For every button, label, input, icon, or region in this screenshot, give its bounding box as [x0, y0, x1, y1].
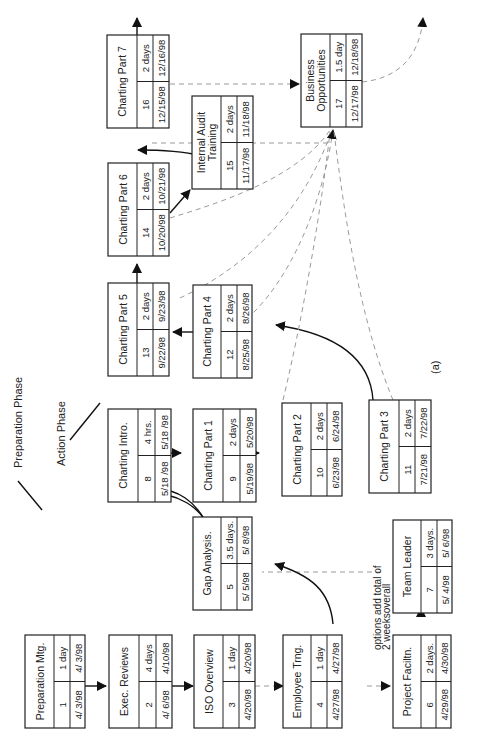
task-duration: 3 days. [424, 528, 435, 559]
task-duration: 1 day [226, 646, 237, 669]
task-node[interactable]: Employee Trng.41 day4/27/984/27/98 [283, 635, 342, 728]
task-start-date: 4/ 6/98 [160, 690, 171, 719]
task-end-date: 4/ 3/98 [73, 644, 84, 673]
task-id: 6 [424, 702, 435, 707]
phase-label-preparation: Preparation Phase [12, 377, 24, 468]
task-node[interactable]: Team Leader73 days.5/ 4/985/ 6/98 [393, 520, 452, 613]
task-duration: 3.5 days. [224, 521, 235, 560]
task-duration: 2 days [140, 44, 151, 72]
task-node[interactable]: ISO Overview31 day4/20/984/20/98 [194, 635, 255, 728]
task-duration: 2 days. [424, 643, 435, 674]
task-end-date: 7/22/98 [418, 407, 429, 439]
task-duration: 2 days [140, 172, 151, 200]
task-start-date: 4/ 3/98 [73, 690, 84, 719]
task-node[interactable]: Charting Part 2102 days6/23/986/24/98 [282, 403, 342, 496]
task-end-date: 12/16/98 [156, 40, 167, 77]
task-id: 14 [140, 227, 151, 238]
task-duration: 1 day [314, 646, 325, 669]
task-end-date: 6/24/98 [330, 410, 341, 442]
phase-label-action: Action Phase [55, 401, 67, 466]
task-end-date: 4/20/98 [242, 642, 253, 674]
task-id: 3 [226, 702, 237, 707]
task-node[interactable]: Charting Part 6142 days10/20/9810/21/98 [108, 163, 169, 256]
task-start-date: 7/21/98 [418, 454, 429, 486]
task-start-date: 9/22/98 [156, 337, 167, 369]
task-node[interactable]: Charting Part 3112 days7/21/987/22/98 [369, 400, 431, 493]
task-start-date: 4/27/98 [330, 689, 341, 721]
task-node[interactable]: Exec. Reviews24 days4/ 6/984/10/98 [109, 635, 172, 728]
task-title: Charting Part 2 [291, 414, 303, 485]
task-title: Project Faciltn. [401, 647, 413, 716]
task-title: Charting Part 3 [378, 411, 390, 482]
task-duration: 2 days [140, 292, 151, 320]
task-start-date: 11/17/98 [240, 148, 251, 184]
task-node[interactable]: BusinessOpportunities171.5 day12/17/9812… [301, 34, 362, 127]
task-title: Preparation Mtg. [34, 643, 46, 721]
task-node[interactable]: Internal AuditTraining152 days11/17/9811… [192, 96, 253, 189]
task-id: 16 [140, 99, 151, 110]
task-duration: 1 day [57, 646, 68, 669]
task-id: 12 [224, 349, 235, 360]
task-duration: 4 days [143, 644, 154, 672]
task-id: 1 [57, 702, 68, 707]
task-title: Exec. Reviews [118, 647, 130, 716]
task-node[interactable]: Charting Part 5132 days9/22/989/23/98 [108, 283, 169, 376]
pert-diagram: Preparation Mtg.11 day4/ 3/984/ 3/98Exec… [0, 0, 477, 751]
task-id: 15 [224, 160, 235, 171]
task-title: Team Leader [401, 535, 413, 597]
task-start-date: 4/20/98 [242, 689, 253, 721]
phase-divider-action [70, 403, 100, 440]
task-node[interactable]: Charting Part 7162 days12/15/9812/16/98 [107, 35, 169, 128]
note-line-2: 2 weeksoverall [381, 584, 392, 650]
task-start-date: 12/17/98 [349, 85, 360, 122]
task-title: Charting Intro. [117, 422, 129, 489]
task-start-date: 6/23/98 [330, 457, 341, 489]
task-id: 17 [333, 98, 344, 109]
task-title: Charting Part 4 [201, 296, 213, 367]
task-end-date: 5/ 8/98 [240, 526, 251, 555]
task-node[interactable]: Project Faciltn.62 days.4/29/984/30/98 [393, 635, 451, 728]
task-title: Charting Part 6 [117, 174, 129, 245]
task-end-date: 4/27/98 [330, 642, 341, 674]
task-start-date: 5/ 4/98 [440, 575, 451, 604]
task-title: Charting Part 7 [116, 46, 128, 117]
task-start-date: 10/20/98 [156, 214, 167, 251]
task-start-date: 5/19/98 [244, 463, 255, 495]
task-title: Gap Analysis. [201, 531, 213, 595]
task-end-date: 4/10/98 [160, 642, 171, 674]
task-node[interactable]: Charting Part 192 days5/19/985/20/98 [193, 409, 256, 502]
task-end-date: 5/ 6/98 [440, 529, 451, 558]
figure-caption: (a) [429, 361, 441, 374]
task-id: 10 [314, 467, 325, 478]
task-duration: 1.5 day [333, 41, 344, 72]
task-node[interactable]: Charting Part 4122 days8/25/988/26/98 [193, 285, 252, 378]
task-node[interactable]: Preparation Mtg.11 day4/ 3/984/ 3/98 [25, 635, 85, 728]
task-id: 4 [314, 702, 325, 707]
task-duration: 2 days [314, 412, 325, 440]
task-duration: 2 days [224, 105, 235, 133]
task-end-date: 5/20/98 [244, 416, 255, 448]
task-id: 7 [424, 587, 435, 592]
task-id: 8 [142, 476, 153, 481]
task-start-date: 5/ 5/98 [240, 572, 251, 601]
task-node[interactable]: Gap Analysis.53.5 days.5/ 5/985/ 8/98 [193, 517, 252, 610]
phase-labels: Preparation Phase Action Phase [12, 377, 100, 510]
task-title: Charting Part 1 [202, 420, 214, 491]
task-title-line2: Opportunities [315, 49, 327, 111]
task-end-date: 5/18 /98 [159, 415, 170, 449]
task-end-date: 4/30/98 [439, 642, 450, 674]
task-title: ISO Overview [203, 649, 215, 714]
task-title: Employee Trng. [291, 645, 303, 719]
task-id: 2 [143, 702, 154, 707]
task-node[interactable]: Charting Intro.84 hrs.5/18 /985/18 /98 [108, 409, 171, 502]
task-id: 9 [227, 476, 238, 481]
task-title: Charting Part 5 [117, 294, 129, 365]
task-start-date: 5/18 /98 [159, 462, 170, 496]
task-duration: 2 days [227, 418, 238, 446]
task-start-date: 4/29/98 [439, 689, 450, 721]
task-id: 13 [140, 347, 151, 358]
task-end-date: 8/26/98 [240, 292, 251, 324]
task-duration: 4 hrs. [142, 420, 153, 444]
task-id: 11 [402, 465, 413, 475]
task-id: 5 [224, 584, 235, 589]
